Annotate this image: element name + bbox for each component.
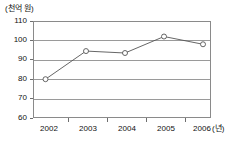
data-point-2004 — [123, 51, 128, 56]
chart-figure: (천억 원) 110 100 90 80 70 60 2002 2003 200… — [0, 0, 235, 148]
data-point-2005 — [162, 34, 167, 39]
series-markers — [43, 34, 206, 82]
data-point-2003 — [84, 49, 89, 54]
data-series-layer — [0, 0, 235, 148]
series-line — [46, 37, 204, 80]
data-point-2006 — [201, 42, 206, 47]
data-point-2002 — [43, 77, 48, 82]
